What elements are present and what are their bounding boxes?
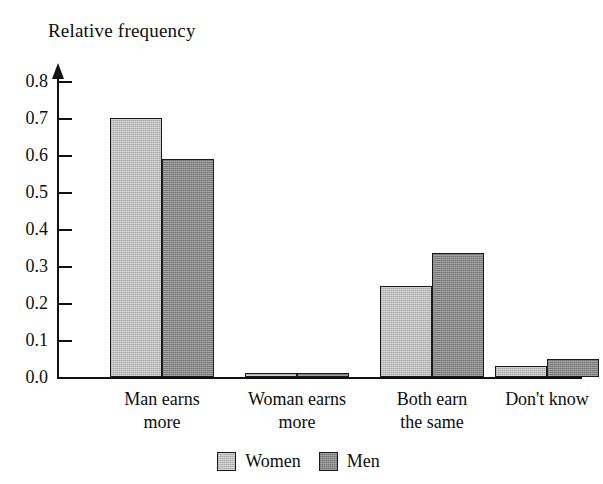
category-label-line1: Don't know bbox=[505, 389, 589, 409]
category-label-3: Don't know bbox=[462, 388, 603, 411]
bar-women-1 bbox=[245, 373, 297, 377]
bar-men-1 bbox=[297, 373, 349, 377]
legend-label: Women bbox=[245, 451, 301, 472]
legend-item-women: Women bbox=[217, 451, 301, 472]
plot-area: 0.00.10.20.30.40.50.60.70.8 bbox=[57, 60, 582, 379]
category-label-line1: Man earns bbox=[124, 389, 199, 409]
y-axis-tick-label: 0.5 bbox=[26, 182, 49, 203]
y-axis-tick-label: 0.2 bbox=[26, 293, 49, 314]
chart-legend: WomenMen bbox=[0, 451, 597, 472]
category-label-line1: Both earn bbox=[397, 389, 467, 409]
y-axis-tick-label: 0.4 bbox=[26, 219, 49, 240]
y-axis-tick-label: 0.0 bbox=[26, 367, 49, 388]
legend-item-men: Men bbox=[319, 451, 380, 472]
y-axis-title: Relative frequency bbox=[48, 20, 196, 42]
bar-men-3 bbox=[547, 359, 599, 378]
bar-women-3 bbox=[495, 366, 547, 377]
legend-swatch-women bbox=[217, 452, 236, 471]
y-axis-tick-label: 0.7 bbox=[26, 108, 49, 129]
y-axis-tick-label: 0.3 bbox=[26, 256, 49, 277]
legend-label: Men bbox=[347, 451, 380, 472]
category-label-line1: Woman earns bbox=[248, 389, 346, 409]
bars-layer bbox=[57, 60, 582, 379]
y-axis-tick-label: 0.6 bbox=[26, 145, 49, 166]
bar-men-2 bbox=[432, 253, 484, 377]
category-label-line2: the same bbox=[347, 411, 517, 434]
bar-women-0 bbox=[110, 118, 162, 377]
bar-women-2 bbox=[380, 286, 432, 377]
legend-swatch-men bbox=[319, 452, 338, 471]
y-axis-tick-label: 0.8 bbox=[26, 71, 49, 92]
bar-men-0 bbox=[162, 159, 214, 377]
x-axis-category-labels: Man earnsmoreWoman earnsmoreBoth earnthe… bbox=[57, 388, 582, 438]
y-axis-tick-label: 0.1 bbox=[26, 330, 49, 351]
